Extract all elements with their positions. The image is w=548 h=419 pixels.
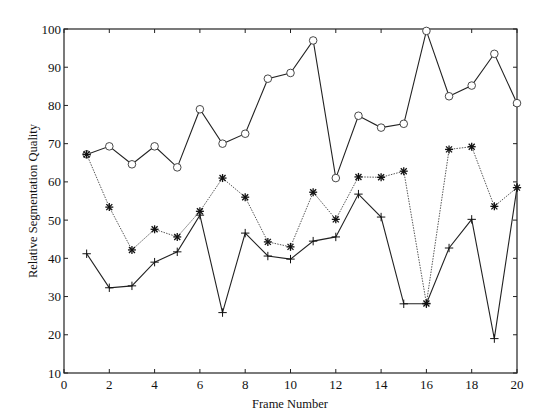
x-tick-label: 10 bbox=[284, 377, 297, 392]
y-tick-label: 50 bbox=[48, 213, 61, 228]
series-line bbox=[87, 147, 517, 304]
y-tick-label: 10 bbox=[48, 366, 61, 381]
y-tick-label: 90 bbox=[48, 60, 61, 75]
plus-marker bbox=[218, 308, 226, 316]
y-tick-label: 30 bbox=[48, 289, 61, 304]
x-tick-label: 4 bbox=[151, 377, 158, 392]
star-marker bbox=[241, 193, 249, 201]
plus-marker bbox=[332, 233, 340, 241]
plus-marker-series bbox=[82, 183, 521, 342]
circle-marker bbox=[309, 37, 317, 45]
x-tick-label: 14 bbox=[375, 377, 389, 392]
star-marker bbox=[445, 145, 453, 153]
star-marker bbox=[287, 243, 295, 251]
star-marker bbox=[468, 143, 476, 151]
x-tick-label: 20 bbox=[511, 377, 524, 392]
series-layer bbox=[82, 27, 521, 343]
circle-marker bbox=[513, 99, 521, 107]
y-tick-label: 70 bbox=[48, 136, 61, 151]
circle-marker bbox=[355, 112, 363, 120]
star-marker bbox=[354, 173, 362, 181]
circle-marker bbox=[196, 105, 204, 113]
star-marker bbox=[151, 225, 159, 233]
plus-marker bbox=[490, 334, 498, 342]
circle-marker bbox=[106, 143, 114, 151]
circle-marker bbox=[151, 143, 159, 151]
circle-marker bbox=[241, 130, 249, 138]
plus-marker bbox=[82, 250, 90, 258]
x-tick-label: 12 bbox=[329, 377, 342, 392]
y-tick-label: 40 bbox=[48, 251, 61, 266]
star-marker bbox=[105, 203, 113, 211]
x-tick-label: 0 bbox=[61, 377, 68, 392]
y-tick-label: 80 bbox=[48, 98, 61, 113]
x-axis-title: Frame Number bbox=[252, 397, 329, 411]
star-marker bbox=[490, 202, 498, 210]
star-marker bbox=[264, 238, 272, 246]
circle-marker bbox=[491, 50, 499, 58]
plot-frame bbox=[64, 29, 517, 373]
circle-marker bbox=[445, 92, 453, 100]
star-marker bbox=[128, 246, 136, 254]
star-marker bbox=[83, 150, 91, 158]
star-marker-series bbox=[83, 143, 521, 308]
star-marker bbox=[219, 174, 227, 182]
axes: 02468101214161820102030405060708090100 bbox=[42, 22, 524, 393]
series-line bbox=[87, 188, 517, 339]
star-marker bbox=[173, 233, 181, 241]
star-marker bbox=[377, 173, 385, 181]
circle-marker bbox=[287, 69, 295, 77]
star-marker bbox=[332, 215, 340, 223]
circle-marker bbox=[264, 75, 272, 83]
plus-marker bbox=[105, 284, 113, 292]
x-tick-label: 6 bbox=[197, 377, 204, 392]
x-tick-label: 16 bbox=[420, 377, 434, 392]
plus-marker bbox=[400, 300, 408, 308]
circle-marker bbox=[332, 174, 340, 182]
circle-marker bbox=[468, 82, 476, 90]
line-chart: 02468101214161820102030405060708090100 F… bbox=[0, 0, 548, 419]
circle-marker bbox=[377, 124, 385, 132]
y-tick-label: 20 bbox=[48, 327, 61, 342]
x-tick-label: 2 bbox=[106, 377, 113, 392]
star-marker bbox=[400, 167, 408, 175]
x-tick-label: 8 bbox=[242, 377, 249, 392]
y-axis-title: Relative Segmentation Quality bbox=[26, 123, 40, 278]
circle-marker bbox=[219, 140, 227, 148]
plus-marker bbox=[173, 248, 181, 256]
y-tick-label: 60 bbox=[48, 174, 61, 189]
circle-marker bbox=[400, 120, 408, 128]
series-line bbox=[87, 31, 517, 178]
star-marker bbox=[309, 188, 317, 196]
y-tick-label: 100 bbox=[42, 22, 62, 37]
circle-marker bbox=[173, 164, 181, 172]
circle-marker bbox=[423, 27, 431, 35]
circle-marker-series bbox=[83, 27, 521, 182]
plus-marker bbox=[196, 211, 204, 219]
x-tick-label: 18 bbox=[465, 377, 478, 392]
circle-marker bbox=[128, 161, 136, 169]
